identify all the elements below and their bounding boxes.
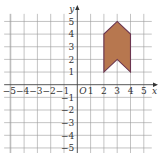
- y-tick-label: −5: [61, 143, 75, 153]
- y-tick-label: 5: [69, 17, 75, 27]
- y-axis-label: y: [68, 4, 75, 14]
- tick-labels: xyO−5−4−3−2−11234554321−1−2−3−4−5: [3, 4, 157, 153]
- y-tick-label: 2: [69, 55, 75, 65]
- y-tick-label: −3: [61, 118, 75, 128]
- y-tick-label: −1: [61, 93, 74, 103]
- x-tick-label: 3: [114, 86, 120, 96]
- y-tick-label: −2: [61, 105, 74, 115]
- x-tick-label: −3: [29, 86, 43, 96]
- x-tick-label: −4: [16, 86, 30, 96]
- x-tick-label: 1: [88, 86, 94, 96]
- x-axis-label: x: [152, 86, 157, 96]
- coordinate-grid: xyO−5−4−3−2−11234554321−1−2−3−4−5: [0, 0, 158, 164]
- y-axis-arrow-icon: [75, 5, 79, 10]
- x-tick-label: 4: [128, 86, 134, 96]
- x-tick-label: 5: [141, 86, 147, 96]
- y-tick-label: 1: [69, 67, 75, 77]
- origin-label: O: [79, 86, 87, 96]
- y-tick-label: −4: [61, 131, 75, 141]
- x-tick-label: −5: [3, 86, 17, 96]
- y-tick-label: 3: [69, 42, 75, 52]
- y-tick-label: 4: [69, 29, 75, 39]
- axes: [4, 5, 158, 153]
- x-tick-label: −2: [43, 86, 56, 96]
- x-tick-label: 2: [101, 86, 107, 96]
